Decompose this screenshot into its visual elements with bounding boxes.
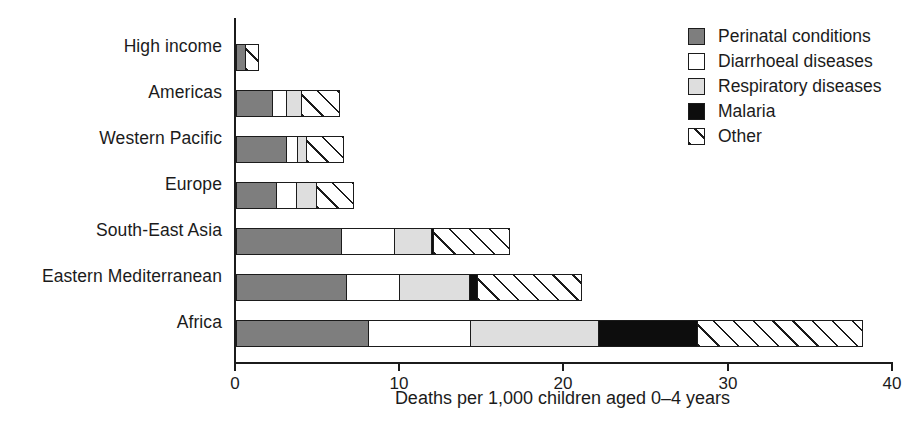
y-tick-label: Western Pacific xyxy=(0,130,222,148)
bar-western-pacific xyxy=(236,136,344,163)
legend-label: Malaria xyxy=(718,103,775,121)
black-swatch-icon xyxy=(688,103,705,120)
bar-segment-perinatal-conditions xyxy=(236,228,343,255)
bar-segment-other xyxy=(306,136,344,163)
bar-segment-diarrhoeal-diseases xyxy=(368,320,471,347)
y-tick-label: Europe xyxy=(0,176,222,194)
bar-eastern-mediterranean xyxy=(236,274,582,301)
bar-europe xyxy=(236,182,354,209)
bar-segment-respiratory-diseases xyxy=(394,228,432,255)
bar-high-income xyxy=(236,44,259,71)
mid-gray-swatch-icon xyxy=(688,28,705,45)
x-tick-mark xyxy=(727,362,729,371)
legend-label: Other xyxy=(718,128,762,146)
chart-legend: Perinatal conditions Diarrhoeal diseases… xyxy=(688,24,881,149)
bar-segment-perinatal-conditions xyxy=(236,274,348,301)
y-tick-label: Africa xyxy=(0,314,222,332)
bar-segment-diarrhoeal-diseases xyxy=(346,274,400,301)
chart-figure: High income Americas Western Pacific Eur… xyxy=(0,0,923,434)
legend-item-perinatal-conditions: Perinatal conditions xyxy=(688,24,881,49)
bar-segment-malaria xyxy=(598,320,698,347)
bar-segment-perinatal-conditions xyxy=(236,182,277,209)
bar-segment-respiratory-diseases xyxy=(286,90,302,117)
bar-segment-other xyxy=(433,228,510,255)
legend-label: Respiratory diseases xyxy=(718,78,881,96)
bar-segment-respiratory-diseases xyxy=(296,182,317,209)
legend-item-malaria: Malaria xyxy=(688,99,881,124)
bar-segment-perinatal-conditions xyxy=(236,136,287,163)
legend-item-respiratory-diseases: Respiratory diseases xyxy=(688,74,881,99)
bar-segment-other xyxy=(316,182,354,209)
x-tick-mark xyxy=(562,362,564,371)
legend-label: Perinatal conditions xyxy=(718,28,871,46)
y-tick-label: High income xyxy=(0,38,222,56)
bar-americas xyxy=(236,90,340,117)
bar-segment-other xyxy=(697,320,863,347)
bar-segment-other xyxy=(477,274,582,301)
x-tick-mark xyxy=(234,362,236,371)
bar-segment-respiratory-diseases xyxy=(470,320,600,347)
legend-item-diarrhoeal-diseases: Diarrhoeal diseases xyxy=(688,49,881,74)
bar-africa xyxy=(236,320,863,347)
light-gray-swatch-icon xyxy=(688,78,705,95)
bar-segment-diarrhoeal-diseases xyxy=(276,182,297,209)
legend-label: Diarrhoeal diseases xyxy=(718,53,873,71)
y-tick-label: South-East Asia xyxy=(0,222,222,240)
x-tick-mark xyxy=(891,362,893,371)
bar-south-east-asia xyxy=(236,228,510,255)
y-tick-label: Eastern Mediterranean xyxy=(0,268,222,286)
bar-segment-perinatal-conditions xyxy=(236,320,369,347)
y-tick-label: Americas xyxy=(0,84,222,102)
hatched-swatch-icon xyxy=(688,128,705,145)
bar-segment-respiratory-diseases xyxy=(399,274,470,301)
legend-item-other: Other xyxy=(688,124,881,149)
bar-segment-diarrhoeal-diseases xyxy=(341,228,395,255)
x-axis-title: Deaths per 1,000 children aged 0–4 years xyxy=(234,388,891,409)
x-tick-mark xyxy=(398,362,400,371)
bar-segment-perinatal-conditions xyxy=(236,90,274,117)
white-swatch-icon xyxy=(688,53,705,70)
bar-segment-other xyxy=(301,90,340,117)
bar-segment-other xyxy=(245,44,260,71)
